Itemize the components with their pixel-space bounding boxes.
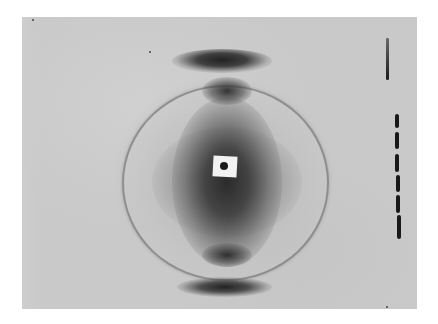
bottom-outer-arc bbox=[177, 277, 272, 297]
edge-streak-segment bbox=[395, 114, 399, 128]
edge-streak-segment bbox=[395, 132, 399, 149]
beam-center-dot bbox=[220, 162, 228, 170]
edge-streak-segment bbox=[396, 195, 400, 213]
film-speck bbox=[32, 19, 34, 21]
edge-streak-segment bbox=[396, 175, 400, 192]
top-outer-arc bbox=[172, 49, 272, 73]
film-speck bbox=[149, 51, 151, 53]
central-dark-region bbox=[172, 97, 282, 267]
edge-streak-segment bbox=[397, 215, 401, 239]
top-inner-arc bbox=[202, 77, 252, 105]
edge-streak-top bbox=[386, 38, 389, 80]
film-edge-shade bbox=[22, 17, 42, 309]
edge-streak-segment bbox=[395, 154, 399, 172]
film-speck bbox=[386, 306, 388, 308]
diffraction-photo bbox=[22, 17, 417, 309]
bottom-inner-arc bbox=[202, 243, 252, 267]
